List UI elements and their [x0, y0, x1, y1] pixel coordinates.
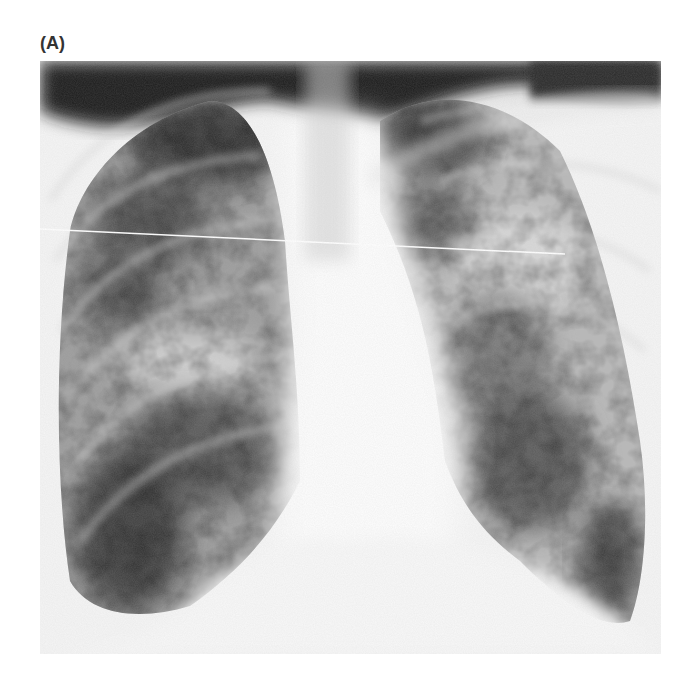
chest-xray-image	[40, 61, 661, 654]
film-grain	[40, 61, 661, 654]
xray-render	[40, 61, 661, 654]
panel-label: (A)	[40, 33, 65, 54]
